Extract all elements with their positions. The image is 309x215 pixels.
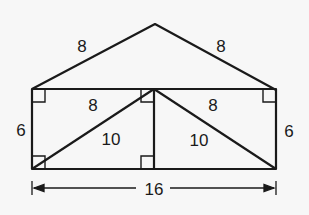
label-total-width: 16 <box>145 180 164 199</box>
label-right-side: 6 <box>284 122 293 141</box>
right-angle-mark-top-right <box>263 89 276 102</box>
geometry-figure: 8 8 8 8 6 6 10 10 16 <box>0 0 309 215</box>
arrowhead-left-icon <box>34 185 44 192</box>
roof-triangle <box>32 24 276 90</box>
arrowhead-right-icon <box>264 185 274 192</box>
label-top-left-segment: 8 <box>88 96 97 115</box>
label-left-side: 6 <box>16 121 25 140</box>
label-roof-left: 8 <box>77 37 86 56</box>
right-angle-mark-bottom-middle <box>141 156 154 169</box>
label-roof-right: 8 <box>216 37 225 56</box>
label-left-diagonal: 10 <box>102 130 121 149</box>
label-top-right-segment: 8 <box>208 96 217 115</box>
label-right-diagonal: 10 <box>190 131 209 150</box>
right-angle-mark-top-left <box>32 89 45 102</box>
